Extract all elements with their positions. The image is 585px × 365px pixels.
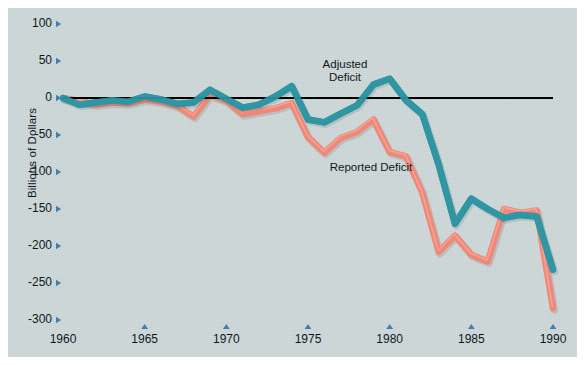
- y-tick-label: -100: [8, 164, 52, 178]
- x-tick-marker: [468, 324, 475, 329]
- y-tick-label: -200: [8, 238, 52, 252]
- y-tick-marker: [56, 169, 61, 175]
- x-tick-marker: [305, 324, 312, 329]
- x-tick-label: 1975: [278, 332, 338, 346]
- y-tick-label: 0: [8, 90, 52, 104]
- x-tick-label: 1965: [115, 332, 175, 346]
- y-tick-label: 50: [8, 53, 52, 67]
- y-tick-marker: [56, 206, 61, 212]
- reported-deficit-label: Reported Deficit: [316, 161, 426, 174]
- series-line-adjusted-deficit-top: [63, 79, 553, 270]
- x-tick-label: 1980: [360, 332, 420, 346]
- y-tick-marker: [56, 243, 61, 249]
- adjusted-deficit-label: Adjusted Deficit: [297, 58, 393, 84]
- x-axis-tick-markers: [141, 324, 556, 329]
- y-tick-label: 100: [8, 16, 52, 30]
- figure-root: Billions of Dollars 100500-50-100-150-20…: [0, 0, 585, 365]
- series-shadow: [64, 81, 554, 272]
- y-tick-marker: [56, 21, 61, 27]
- x-tick-label: 1970: [196, 332, 256, 346]
- series-layer: [62, 77, 554, 310]
- x-tick-label: 1960: [33, 332, 93, 346]
- x-tick-marker: [386, 324, 393, 329]
- y-tick-marker: [56, 132, 61, 138]
- x-tick-label: 1985: [441, 332, 501, 346]
- y-axis-tick-markers: [56, 21, 61, 323]
- adjusted-deficit-label-line2: Deficit: [329, 71, 361, 83]
- x-tick-label: 1990: [523, 332, 583, 346]
- adjusted-deficit-label-line1: Adjusted: [323, 58, 368, 70]
- x-tick-marker: [141, 324, 148, 329]
- y-tick-marker: [56, 280, 61, 286]
- series-line-adjusted-deficit: [63, 79, 553, 270]
- chart-plate: Billions of Dollars 100500-50-100-150-20…: [8, 8, 577, 357]
- y-tick-label: -300: [8, 312, 52, 326]
- x-tick-marker: [550, 324, 557, 329]
- y-tick-label: -250: [8, 275, 52, 289]
- reported-deficit-label-line1: Reported Deficit: [330, 161, 412, 173]
- y-tick-label: -50: [8, 127, 52, 141]
- deficit-line-chart: [8, 8, 577, 357]
- x-tick-marker: [223, 324, 230, 329]
- y-tick-label: -150: [8, 201, 52, 215]
- y-tick-marker: [56, 317, 61, 323]
- y-tick-marker: [56, 58, 61, 64]
